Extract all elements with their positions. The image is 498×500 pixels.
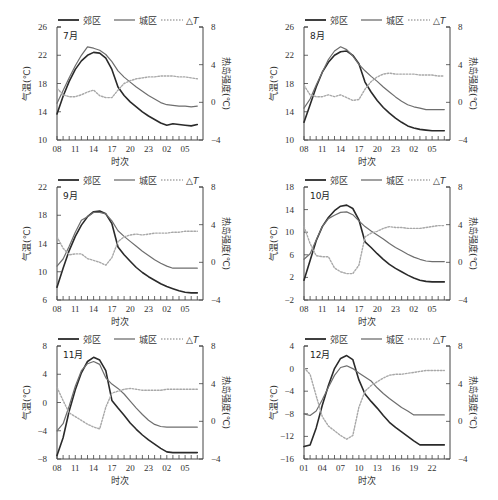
svg-text:郊区: 郊区 bbox=[83, 175, 101, 186]
svg-text:△T: △T bbox=[433, 335, 447, 345]
x-tick-label: 22 bbox=[428, 463, 437, 473]
x-tick-label: 08 bbox=[53, 144, 63, 154]
month-label: 10月 bbox=[310, 191, 330, 201]
month-label: 8月 bbox=[310, 31, 325, 41]
x-tick-label: 02 bbox=[162, 463, 171, 473]
x-tick-label: 11 bbox=[318, 144, 327, 154]
axes-frame bbox=[57, 346, 203, 459]
series-line-delta-t bbox=[57, 387, 197, 429]
x-tick-label: 11 bbox=[71, 144, 80, 154]
x-tick-label: 14 bbox=[89, 304, 99, 314]
y-tick-label: 22 bbox=[285, 50, 294, 60]
y-tick-label: 22 bbox=[38, 182, 47, 192]
y2-axis-label: 热岛强度(℃) bbox=[468, 57, 479, 110]
axes-frame bbox=[304, 187, 450, 300]
x-tick-label: 05 bbox=[181, 304, 191, 314]
y2-tick-label: −4 bbox=[458, 454, 468, 464]
axes-frame bbox=[57, 187, 203, 300]
y2-tick-label: 4 bbox=[211, 60, 216, 70]
y2-tick-label: 8 bbox=[211, 182, 216, 192]
y2-tick-label: 8 bbox=[458, 22, 463, 32]
y-tick-label: 10 bbox=[285, 227, 295, 237]
y-tick-label: 6 bbox=[290, 250, 295, 260]
y-tick-label: −2 bbox=[284, 295, 294, 305]
x-tick-label: 02 bbox=[409, 144, 418, 154]
svg-text:城区: 城区 bbox=[139, 16, 157, 26]
x-tick-label: 10 bbox=[354, 463, 364, 473]
axes-frame bbox=[57, 27, 203, 140]
series-line-delta-t bbox=[57, 231, 197, 265]
x-axis-label: 时次 bbox=[111, 316, 129, 327]
y-tick-label: 18 bbox=[38, 79, 48, 89]
y2-tick-label: 8 bbox=[458, 182, 463, 192]
y2-tick-label: −4 bbox=[458, 135, 468, 145]
x-tick-label: 05 bbox=[428, 144, 438, 154]
x-tick-label: 16 bbox=[391, 463, 401, 473]
y-tick-label: 0 bbox=[43, 398, 48, 408]
axes-frame bbox=[304, 346, 450, 459]
series-line-urban bbox=[304, 47, 444, 110]
y-axis-label: 气温(℃) bbox=[268, 66, 279, 101]
y-tick-label: 18 bbox=[285, 182, 295, 192]
y2-axis-label: 热岛强度(℃) bbox=[468, 376, 479, 429]
y-axis-label: 气温(℃) bbox=[21, 226, 32, 261]
x-tick-label: 02 bbox=[162, 144, 171, 154]
x-tick-label: 13 bbox=[373, 463, 383, 473]
x-tick-label: 14 bbox=[89, 463, 99, 473]
series-line-urban bbox=[57, 212, 197, 268]
y-tick-label: −4 bbox=[37, 426, 47, 436]
x-tick-label: 20 bbox=[373, 144, 383, 154]
y-tick-label: 8 bbox=[43, 341, 48, 351]
y2-tick-label: 0 bbox=[458, 97, 463, 107]
y2-tick-label: 8 bbox=[458, 341, 463, 351]
x-tick-label: 14 bbox=[336, 144, 346, 154]
y-tick-label: 14 bbox=[38, 239, 48, 249]
series-line-suburb bbox=[57, 357, 197, 455]
axes-frame bbox=[304, 27, 450, 140]
y-tick-label: 0 bbox=[290, 364, 295, 374]
y2-tick-label: −4 bbox=[211, 295, 221, 305]
y-tick-label: 4 bbox=[290, 341, 295, 351]
x-tick-label: 23 bbox=[144, 463, 154, 473]
series-line-suburb bbox=[304, 205, 444, 282]
x-tick-label: 17 bbox=[107, 304, 117, 314]
x-tick-label: 05 bbox=[181, 144, 191, 154]
x-tick-label: 02 bbox=[409, 304, 418, 314]
legend: 郊区城区△T bbox=[305, 175, 447, 186]
svg-text:城区: 城区 bbox=[139, 176, 157, 186]
y-tick-label: 14 bbox=[285, 107, 295, 117]
x-axis-label: 时次 bbox=[111, 475, 129, 486]
svg-text:郊区: 郊区 bbox=[330, 334, 348, 345]
svg-text:城区: 城区 bbox=[139, 335, 157, 345]
y2-tick-label: 4 bbox=[458, 60, 463, 70]
x-tick-label: 08 bbox=[300, 304, 310, 314]
x-tick-label: 01 bbox=[300, 463, 309, 473]
y2-tick-label: 4 bbox=[458, 379, 463, 389]
chart-panel-8月: 08111417202302051014182226−4048气温(℃)热岛强度… bbox=[268, 15, 479, 167]
x-tick-label: 23 bbox=[144, 304, 154, 314]
series-line-urban bbox=[304, 212, 444, 262]
svg-text:城区: 城区 bbox=[386, 16, 404, 26]
y-tick-label: 10 bbox=[38, 267, 48, 277]
x-tick-label: 05 bbox=[181, 463, 191, 473]
chart-panel-7月: 08111417202302051014182226−4048气温(℃)热岛强度… bbox=[21, 15, 232, 167]
x-tick-label: 23 bbox=[391, 144, 401, 154]
legend: 郊区城区△T bbox=[58, 334, 200, 345]
y-axis-label: 气温(℃) bbox=[268, 226, 279, 261]
x-axis-label: 时次 bbox=[358, 316, 376, 327]
chart-panel-11月: 0811141720230205−8−4048−4048气温(℃)热岛强度(℃)… bbox=[21, 334, 232, 486]
y-tick-label: 10 bbox=[285, 135, 295, 145]
y2-tick-label: 4 bbox=[211, 379, 216, 389]
y-axis-label: 气温(℃) bbox=[21, 66, 32, 101]
y2-axis-label: 热岛强度(℃) bbox=[468, 217, 479, 270]
svg-text:△T: △T bbox=[186, 335, 200, 345]
x-tick-label: 11 bbox=[71, 463, 80, 473]
x-tick-label: 05 bbox=[428, 304, 438, 314]
series-line-urban bbox=[304, 366, 444, 416]
x-tick-label: 08 bbox=[300, 144, 310, 154]
y-tick-label: 18 bbox=[38, 210, 48, 220]
x-tick-label: 19 bbox=[409, 463, 419, 473]
x-tick-label: 17 bbox=[107, 144, 117, 154]
x-tick-label: 20 bbox=[126, 304, 136, 314]
month-label: 12月 bbox=[310, 350, 330, 360]
